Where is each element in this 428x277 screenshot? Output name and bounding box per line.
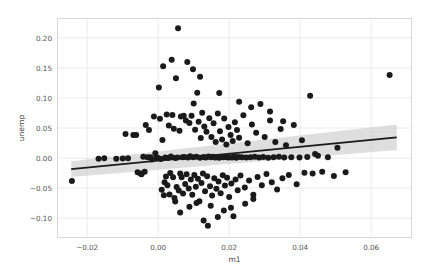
plot-area: [57, 18, 412, 238]
x-tick-label: −0.02: [76, 243, 98, 252]
x-tick-label: 0.06: [363, 243, 379, 252]
y-tick-label: −0.10: [30, 214, 52, 223]
y-tick-label: 0.20: [36, 33, 52, 42]
y-tick-label: −0.05: [30, 184, 52, 193]
y-tick-label: 0.05: [36, 124, 52, 133]
y-tick-label: 0.00: [36, 154, 52, 163]
scatter-plot-figure: m1 unemp −0.020.000.020.040.06−0.10−0.05…: [0, 0, 428, 277]
x-tick-label: 0.02: [221, 243, 237, 252]
y-tick-label: 0.10: [36, 93, 52, 102]
x-tick-label: 0.00: [150, 243, 166, 252]
x-tick-label: 0.04: [292, 243, 308, 252]
plot-canvas: [57, 18, 412, 238]
y-axis-title: unemp: [17, 115, 26, 142]
x-axis-title: m1: [228, 255, 240, 264]
y-tick-label: 0.15: [36, 63, 52, 72]
